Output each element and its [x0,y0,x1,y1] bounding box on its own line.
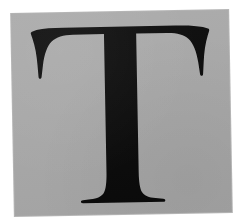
letter-t-outline [31,25,213,204]
letter-glyph-container [11,10,232,216]
letter-t-glyph [11,10,232,216]
gray-panel [11,10,232,216]
image-canvas [0,0,234,224]
